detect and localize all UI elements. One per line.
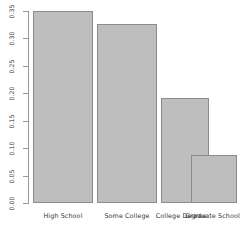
y-axis-tick xyxy=(23,38,28,39)
y-axis-tick-label: 0.10 xyxy=(6,137,17,159)
plot-area: 0.35 0.30 0.25 0.20 0.15 0.10 0.05 0.00 … xyxy=(0,0,248,233)
x-axis-label-high-school: High School xyxy=(33,210,93,222)
bar-graduate-school xyxy=(191,155,237,203)
y-axis-tick xyxy=(23,93,28,94)
y-axis-tick-label: 0.05 xyxy=(6,165,17,187)
y-axis-tick xyxy=(23,148,28,149)
y-axis-tick-label: 0.20 xyxy=(6,82,17,104)
y-axis-tick xyxy=(23,176,28,177)
y-axis-tick xyxy=(23,11,28,12)
y-axis-tick-label: 0.30 xyxy=(6,27,17,49)
y-axis-tick-label: 0.00 xyxy=(6,192,17,214)
y-axis-tick-label: 0.35 xyxy=(6,0,17,22)
y-axis-tick-label: 0.15 xyxy=(6,110,17,132)
bar-high-school xyxy=(33,11,93,203)
y-axis-tick xyxy=(23,66,28,67)
x-axis-label-graduate-school: Graduate School xyxy=(177,210,248,222)
y-axis-tick xyxy=(23,203,28,204)
y-axis-line xyxy=(28,11,29,204)
y-axis-tick-label: 0.25 xyxy=(6,55,17,77)
bar-chart: 0.35 0.30 0.25 0.20 0.15 0.10 0.05 0.00 … xyxy=(0,0,248,233)
bar-some-college xyxy=(97,24,157,203)
y-axis-tick xyxy=(23,121,28,122)
